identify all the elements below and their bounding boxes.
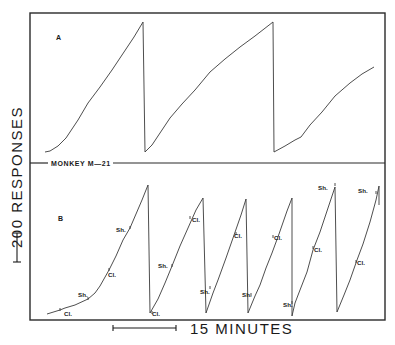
cumulative-trace-segment [337, 186, 379, 312]
horizontal-scale-bar [113, 325, 176, 331]
event-label-sh: Sh. [358, 187, 368, 194]
pen-reset-line [273, 22, 274, 152]
x-axis-title: 15 MINUTES [190, 320, 293, 337]
event-label-sh: Sh. [242, 291, 252, 298]
event-label-sh: Sh. [283, 301, 293, 308]
event-label-sh: Sh. [78, 291, 88, 298]
panel-a-label: A [56, 34, 61, 41]
cumulative-trace-segment [248, 198, 292, 313]
event-label-cl: Cl. [192, 216, 200, 223]
event-label-cl: Cl. [108, 271, 116, 278]
event-label-cl: Cl. [64, 310, 72, 317]
pen-reset-line [148, 185, 150, 313]
event-label-sh: Sh. [116, 226, 126, 233]
event-label-cl: Cl. [152, 310, 160, 317]
panel-a-traces [45, 22, 374, 152]
subject-label: MONKEY M—21 [51, 160, 111, 167]
panel-b-label: B [58, 215, 63, 222]
y-axis-title: 200 RESPONSES [8, 106, 25, 248]
pen-reset-line [203, 198, 206, 313]
cumulative-trace-segment [274, 67, 374, 152]
event-label-cl: Cl. [234, 232, 242, 239]
cumulative-trace-segment [206, 199, 246, 313]
cumulative-record-figure: MONKEY M—21 A B Cl.Sh.Cl.Sh.Cl.Sh.Cl.Sh.… [0, 0, 395, 345]
cumulative-trace-segment [47, 185, 148, 314]
event-label-sh: Sh. [200, 288, 210, 295]
event-label-cl: Cl. [274, 234, 282, 241]
event-annotations: Cl.Sh.Cl.Sh.Cl.Sh.Cl.Sh.Cl.Sh.Cl.Sh.Cl.S… [64, 184, 368, 317]
pen-reset-line [143, 22, 145, 152]
event-label-sh: Sh. [158, 262, 168, 269]
event-label-cl: Cl. [357, 259, 365, 266]
panel-b-traces [47, 183, 379, 316]
cumulative-trace-segment [45, 22, 143, 152]
event-label-cl: Cl. [314, 246, 322, 253]
cumulative-trace-segment [145, 22, 273, 152]
pen-reset-line [335, 187, 337, 312]
event-label-sh: Sh. [318, 184, 328, 191]
